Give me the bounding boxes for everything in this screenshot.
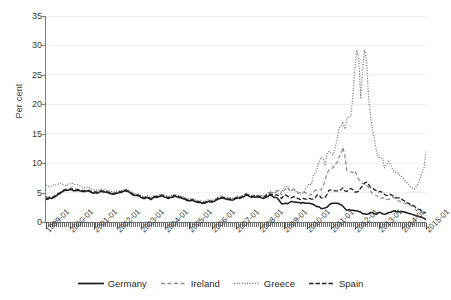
x-tick-minor xyxy=(349,223,350,227)
y-tick-label: 25 xyxy=(20,70,42,80)
x-tick-minor xyxy=(64,223,65,227)
series-line-spain xyxy=(46,182,426,213)
x-tick-minor xyxy=(90,223,91,227)
x-tick-minor xyxy=(137,223,138,227)
x-tick-minor xyxy=(88,223,89,227)
x-tick-minor xyxy=(323,223,324,227)
legend-label: Ireland xyxy=(191,278,220,289)
x-tick-minor xyxy=(256,223,257,227)
y-tick-label: 15 xyxy=(20,129,42,139)
y-tick-label: 5 xyxy=(20,188,42,198)
y-tick-mark xyxy=(41,163,45,164)
x-tick-minor xyxy=(185,223,186,227)
x-tick-minor xyxy=(62,223,63,227)
x-tick-minor xyxy=(325,223,326,227)
x-tick-minor xyxy=(303,223,304,227)
x-tick-minor xyxy=(232,223,233,227)
x-tick-minor xyxy=(420,223,421,227)
chart-legend: GermanyIrelandGreeceSpain xyxy=(0,272,441,294)
legend-item-greece[interactable]: Greece xyxy=(234,278,295,289)
x-tick-minor xyxy=(183,223,184,227)
x-tick-minor xyxy=(135,223,136,227)
x-tick-minor xyxy=(422,223,423,227)
plot-area xyxy=(46,16,426,222)
x-tick-minor xyxy=(347,223,348,227)
y-tick-mark xyxy=(41,75,45,76)
y-tick-mark xyxy=(41,222,45,223)
x-tick-minor xyxy=(373,223,374,227)
x-tick-minor xyxy=(206,223,207,227)
x-tick-minor xyxy=(280,223,281,227)
legend-item-spain[interactable]: Spain xyxy=(309,278,363,289)
x-tick-minor xyxy=(276,223,277,227)
x-tick-minor xyxy=(157,223,158,227)
x-tick-minor xyxy=(375,223,376,227)
x-tick-minor xyxy=(159,223,160,227)
x-tick-minor xyxy=(111,223,112,227)
x-tick-minor xyxy=(228,223,229,227)
legend-item-germany[interactable]: Germany xyxy=(78,278,147,289)
x-tick-minor xyxy=(86,223,87,227)
legend-swatch-spain xyxy=(309,280,335,287)
y-tick-mark xyxy=(41,193,45,194)
y-tick-mark xyxy=(41,45,45,46)
x-tick-minor xyxy=(109,223,110,227)
legend-label: Greece xyxy=(264,278,295,289)
series-line-ireland xyxy=(46,147,426,215)
x-tick-label: 2015-01 xyxy=(424,207,451,234)
y-tick-label: 20 xyxy=(20,99,42,109)
y-tick-mark xyxy=(41,134,45,135)
y-tick-label: 0 xyxy=(20,217,42,227)
legend-label: Germany xyxy=(108,278,147,289)
x-tick-minor xyxy=(161,223,162,227)
y-tick-mark xyxy=(41,16,45,17)
series-line-greece xyxy=(46,50,426,202)
legend-swatch-germany xyxy=(78,280,104,287)
y-tick-label: 35 xyxy=(20,11,42,21)
x-tick-minor xyxy=(208,223,209,227)
x-tick-minor xyxy=(327,223,328,227)
x-tick-minor xyxy=(113,223,114,227)
legend-item-ireland[interactable]: Ireland xyxy=(161,278,220,289)
x-tick-minor xyxy=(278,223,279,227)
x-tick-minor xyxy=(252,223,253,227)
x-tick-minor xyxy=(133,223,134,227)
x-tick-minor xyxy=(351,223,352,227)
x-tick-minor xyxy=(66,223,67,227)
x-tick-minor xyxy=(394,223,395,227)
x-tick-minor xyxy=(396,223,397,227)
y-tick-mark xyxy=(41,104,45,105)
y-axis-tick-labels: 05101520253035 xyxy=(18,16,42,222)
x-tick-minor xyxy=(371,223,372,227)
x-tick-minor xyxy=(204,223,205,227)
x-tick-minor xyxy=(398,223,399,227)
y-tick-label: 10 xyxy=(20,158,42,168)
legend-swatch-greece xyxy=(234,280,260,287)
x-tick-minor xyxy=(181,223,182,227)
x-tick-minor xyxy=(299,223,300,227)
legend-swatch-ireland xyxy=(161,280,187,287)
data-series-layer xyxy=(46,16,426,222)
y-tick-label: 30 xyxy=(20,40,42,50)
x-tick-minor xyxy=(230,223,231,227)
legend-label: Spain xyxy=(339,278,363,289)
x-tick-minor xyxy=(418,223,419,227)
x-tick-minor xyxy=(301,223,302,227)
x-tick-minor xyxy=(254,223,255,227)
x-axis-tick-labels: 1999-012000-012001-012002-012003-012004-… xyxy=(0,228,441,272)
